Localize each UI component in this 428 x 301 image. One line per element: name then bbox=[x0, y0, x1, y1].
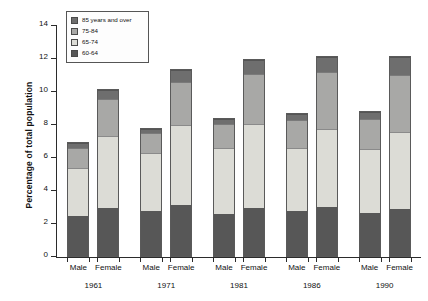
bar-segment-60-64 bbox=[98, 208, 118, 256]
x-tick bbox=[338, 257, 339, 262]
y-tick-label: 6 bbox=[44, 151, 48, 160]
bar-segment-75-84 bbox=[68, 148, 88, 168]
bar-segment-60-64 bbox=[141, 211, 161, 256]
y-tick: 4 bbox=[51, 190, 57, 191]
bar-1971-female bbox=[170, 69, 192, 257]
bar-segment-65-74 bbox=[98, 136, 118, 208]
bar-segment-75-84 bbox=[214, 124, 234, 148]
bar-segment-75-84 bbox=[98, 99, 118, 137]
legend-label: 85 years and over bbox=[82, 17, 132, 23]
x-label-female: Female bbox=[234, 263, 274, 272]
bar-segment-60-64 bbox=[317, 207, 337, 256]
y-tick: 14 bbox=[51, 25, 57, 26]
bar-segment-60-64 bbox=[244, 208, 264, 256]
bar-segment-60-64 bbox=[171, 205, 191, 256]
x-label-year-1981: 1981 bbox=[199, 281, 279, 290]
y-tick-label: 2 bbox=[44, 217, 48, 226]
y-tick-label: 4 bbox=[44, 184, 48, 193]
bar-segment-75-84 bbox=[317, 72, 337, 128]
bar-1971-male bbox=[140, 128, 162, 257]
bar-segment-65-74 bbox=[244, 124, 264, 208]
legend-item: 75-84 bbox=[71, 26, 145, 37]
y-tick-label: 8 bbox=[44, 118, 48, 127]
y-tick-label: 0 bbox=[44, 250, 48, 259]
bar-segment-75-84 bbox=[244, 74, 264, 124]
bar-segment-85-years-and-over bbox=[317, 57, 337, 73]
x-tick bbox=[119, 257, 120, 262]
legend-swatch-icon bbox=[71, 17, 78, 24]
x-label-year-1990: 1990 bbox=[345, 281, 425, 290]
bar-segment-65-74 bbox=[171, 125, 191, 205]
x-tick bbox=[286, 257, 287, 262]
bar-segment-65-74 bbox=[141, 153, 161, 211]
x-tick bbox=[97, 257, 98, 262]
x-label-female: Female bbox=[161, 263, 201, 272]
x-tick bbox=[89, 257, 90, 262]
bar-segment-60-64 bbox=[287, 211, 307, 256]
bar-segment-85-years-and-over bbox=[98, 90, 118, 99]
x-label-year-1971: 1971 bbox=[126, 281, 206, 290]
y-tick-label: 10 bbox=[39, 85, 48, 94]
bar-segment-60-64 bbox=[214, 214, 234, 256]
legend-label: 60-64 bbox=[82, 50, 98, 56]
bar-1981-female bbox=[243, 59, 265, 257]
bar-1986-male bbox=[286, 113, 308, 257]
bar-segment-65-74 bbox=[287, 148, 307, 211]
x-tick bbox=[140, 257, 141, 262]
y-tick: 10 bbox=[51, 91, 57, 92]
legend-item: 85 years and over bbox=[71, 15, 145, 26]
bar-segment-85-years-and-over bbox=[390, 57, 410, 75]
x-label-female: Female bbox=[380, 263, 420, 272]
bar-segment-75-84 bbox=[141, 133, 161, 153]
y-tick: 0 bbox=[51, 256, 57, 257]
x-tick bbox=[243, 257, 244, 262]
bar-segment-65-74 bbox=[360, 149, 380, 213]
bar-1990-male bbox=[359, 111, 381, 257]
legend-label: 75-84 bbox=[82, 28, 98, 34]
x-tick bbox=[308, 257, 309, 262]
bar-segment-60-64 bbox=[68, 216, 88, 256]
x-tick bbox=[411, 257, 412, 262]
bar-segment-75-84 bbox=[171, 82, 191, 124]
y-tick: 12 bbox=[51, 58, 57, 59]
x-label-year-1961: 1961 bbox=[53, 281, 133, 290]
bar-1961-male bbox=[67, 142, 89, 257]
legend-swatch-icon bbox=[71, 39, 78, 46]
legend-item: 65-74 bbox=[71, 37, 145, 48]
bar-segment-65-74 bbox=[214, 148, 234, 214]
x-tick bbox=[213, 257, 214, 262]
x-label-female: Female bbox=[307, 263, 347, 272]
legend-swatch-icon bbox=[71, 28, 78, 35]
bar-segment-85-years-and-over bbox=[171, 70, 191, 82]
y-axis-title: Percentage of total population bbox=[24, 45, 34, 245]
y-tick-label: 12 bbox=[39, 52, 48, 61]
x-tick bbox=[67, 257, 68, 262]
bar-1961-female bbox=[97, 89, 119, 257]
bar-segment-60-64 bbox=[360, 213, 380, 256]
x-tick bbox=[381, 257, 382, 262]
y-tick: 6 bbox=[51, 157, 57, 158]
x-tick bbox=[162, 257, 163, 262]
bar-segment-65-74 bbox=[390, 132, 410, 210]
bar-segment-75-84 bbox=[287, 120, 307, 148]
x-tick bbox=[389, 257, 390, 262]
y-tick: 8 bbox=[51, 124, 57, 125]
bar-segment-75-84 bbox=[390, 75, 410, 132]
bar-1990-female bbox=[389, 56, 411, 257]
bar-segment-65-74 bbox=[68, 168, 88, 216]
x-tick bbox=[170, 257, 171, 262]
x-tick bbox=[192, 257, 193, 262]
y-tick-label: 14 bbox=[39, 19, 48, 28]
bar-segment-85-years-and-over bbox=[244, 60, 264, 74]
x-label-year-1986: 1986 bbox=[272, 281, 352, 290]
legend-item: 60-64 bbox=[71, 48, 145, 59]
legend: 85 years and over75-8465-7460-64 bbox=[66, 11, 149, 63]
stacked-bar-chart: Percentage of total population 024681012… bbox=[0, 0, 428, 301]
x-label-female: Female bbox=[88, 263, 128, 272]
x-tick bbox=[316, 257, 317, 262]
x-tick bbox=[359, 257, 360, 262]
bar-segment-75-84 bbox=[360, 119, 380, 149]
legend-swatch-icon bbox=[71, 50, 78, 57]
y-tick: 2 bbox=[51, 223, 57, 224]
legend-label: 65-74 bbox=[82, 39, 98, 45]
